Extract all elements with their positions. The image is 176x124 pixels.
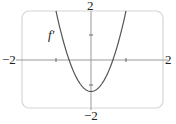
y-min-label: −2 bbox=[84, 108, 98, 123]
y-max-label: 2 bbox=[87, 0, 94, 13]
curve-label: f′ bbox=[48, 27, 55, 42]
x-min-label: −2 bbox=[2, 52, 16, 67]
derivative-graph: −2 2 2 −2 f′ bbox=[0, 0, 176, 124]
x-max-label: 2 bbox=[165, 52, 172, 67]
